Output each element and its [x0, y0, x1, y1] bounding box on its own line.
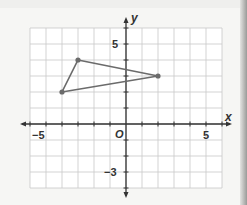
x-axis-left-arrow-icon [20, 122, 26, 127]
x-tick-label-neg5: −5 [32, 129, 45, 141]
y-tick-label-neg3: −3 [104, 166, 117, 178]
vertex-point [59, 89, 64, 94]
vertex-point [75, 57, 80, 62]
vertex-point [155, 73, 160, 78]
x-tick-label-5: 5 [203, 129, 209, 141]
page-edge-shadow [240, 0, 247, 205]
y-axis-down-arrow-icon [124, 192, 129, 198]
coordinate-plane: y x O −5 5 5 −3 [0, 0, 247, 205]
origin-label: O [115, 128, 124, 140]
y-axis-up-arrow-icon [124, 17, 129, 23]
y-tick-label-5: 5 [112, 38, 118, 50]
y-axis-label: y [130, 11, 139, 25]
x-axis-label: x [224, 110, 233, 124]
